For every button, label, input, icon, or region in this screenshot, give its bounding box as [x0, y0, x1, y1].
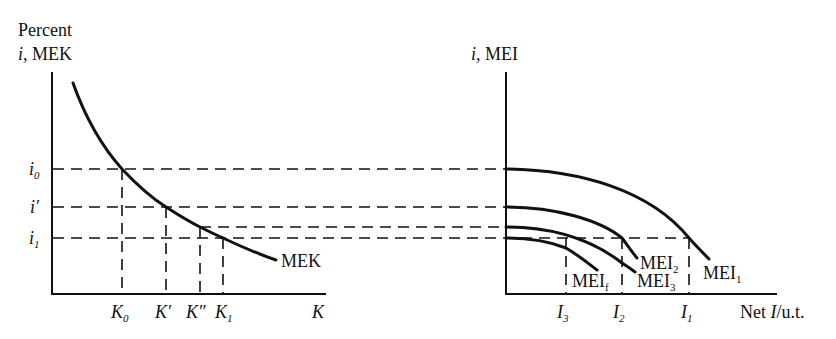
tick-i-prime: i′ [30, 197, 40, 217]
ylabel-percent: Percent [18, 20, 72, 40]
tick-i0: i0 [29, 159, 40, 181]
mei1-curve [506, 169, 709, 259]
tick-i1-invest: I1 [680, 302, 693, 324]
label-mei3: MEI3 [637, 271, 676, 293]
xlabel-net-investment: Net I/u.t. [740, 302, 805, 322]
tick-i2: I2 [612, 302, 625, 324]
mek-curve [73, 83, 276, 260]
tick-i1: i1 [29, 228, 40, 250]
tick-k-double-prime: K″ [185, 302, 206, 322]
mek-mei-diagram: Percent i, MEK i0 i′ i1 MEK K0 K′ K″ K1 … [0, 0, 836, 339]
label-meif: MEIf [572, 271, 609, 293]
right-panel-mei: i, MEI MEI2 MEI1 MEIf MEI3 I3 I2 I1 Net … [471, 44, 805, 324]
tick-k1: K1 [214, 302, 233, 324]
xlabel-k: K [311, 302, 325, 322]
tick-i3: I3 [556, 302, 569, 324]
meif-curve [506, 238, 597, 270]
label-mei1: MEI1 [703, 263, 742, 285]
label-mek: MEK [281, 251, 321, 271]
left-panel-mek: Percent i, MEK i0 i′ i1 MEK K0 K′ K″ K1 … [18, 20, 326, 324]
tick-k0: K0 [110, 302, 129, 324]
tick-k-prime: K′ [154, 302, 172, 322]
ylabel-i-mei: i, MEI [471, 44, 518, 64]
ylabel-i-mek: i, MEK [18, 44, 72, 64]
